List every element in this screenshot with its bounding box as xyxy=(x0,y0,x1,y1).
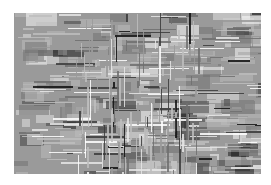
vertical-streak xyxy=(137,103,139,125)
horizontal-streak xyxy=(91,24,113,25)
vertical-streak xyxy=(173,170,174,174)
horizontal-streak xyxy=(185,147,227,148)
vertical-streak xyxy=(116,37,117,62)
texture-block xyxy=(213,13,240,20)
horizontal-streak xyxy=(209,116,248,117)
texture-block xyxy=(115,25,130,32)
horizontal-streak xyxy=(239,73,257,75)
texture-block xyxy=(64,21,81,24)
horizontal-streak xyxy=(206,120,227,122)
vertical-streak xyxy=(76,59,77,80)
vertical-streak xyxy=(150,144,152,174)
texture-block xyxy=(22,119,30,127)
vertical-streak xyxy=(161,89,162,114)
horizontal-streak xyxy=(161,17,178,18)
vertical-streak xyxy=(85,73,87,82)
texture-block xyxy=(36,22,57,26)
horizontal-streak xyxy=(255,125,261,126)
horizontal-streak xyxy=(40,91,54,92)
vertical-streak xyxy=(114,105,115,124)
horizontal-streak xyxy=(111,77,136,78)
vertical-streak xyxy=(164,142,166,158)
vertical-streak xyxy=(87,147,89,168)
vertical-streak xyxy=(120,119,122,146)
vertical-streak xyxy=(97,79,98,92)
texture-block xyxy=(252,29,261,36)
horizontal-streak xyxy=(145,135,180,136)
horizontal-streak xyxy=(60,59,97,60)
vertical-streak xyxy=(90,80,91,120)
vertical-streak xyxy=(161,80,162,86)
horizontal-streak xyxy=(253,165,261,167)
horizontal-streak xyxy=(224,131,246,132)
vertical-streak xyxy=(113,97,114,127)
horizontal-streak xyxy=(195,141,209,143)
texture-block xyxy=(122,45,146,54)
texture-canvas xyxy=(14,13,261,174)
vertical-streak xyxy=(195,87,197,103)
horizontal-streak xyxy=(68,28,113,29)
vertical-streak xyxy=(198,48,200,74)
horizontal-streak xyxy=(103,167,118,169)
vertical-streak xyxy=(178,30,180,40)
vertical-streak xyxy=(78,155,79,174)
vertical-streak xyxy=(95,60,97,67)
horizontal-streak xyxy=(231,167,261,169)
horizontal-streak xyxy=(129,93,168,94)
horizontal-streak xyxy=(115,35,151,37)
horizontal-streak xyxy=(248,94,261,96)
vertical-streak xyxy=(192,123,194,143)
vertical-streak xyxy=(107,125,109,145)
horizontal-streak xyxy=(114,110,140,111)
horizontal-streak xyxy=(34,102,75,103)
horizontal-streak xyxy=(32,129,48,131)
horizontal-streak xyxy=(232,107,241,109)
texture-block xyxy=(239,150,261,156)
vertical-streak xyxy=(106,49,108,77)
vertical-streak xyxy=(143,30,144,62)
horizontal-streak xyxy=(199,158,212,160)
vertical-streak xyxy=(181,123,182,138)
horizontal-streak xyxy=(49,152,86,153)
horizontal-streak xyxy=(109,146,125,147)
vertical-streak xyxy=(109,40,111,70)
vertical-streak xyxy=(186,103,188,140)
horizontal-streak xyxy=(151,16,186,17)
horizontal-streak xyxy=(96,171,110,172)
horizontal-streak xyxy=(216,37,239,39)
vertical-streak xyxy=(186,148,187,165)
horizontal-streak xyxy=(127,41,171,43)
texture-block xyxy=(16,172,28,174)
horizontal-streak xyxy=(144,86,159,88)
horizontal-streak xyxy=(254,100,261,101)
vertical-streak xyxy=(106,140,107,155)
horizontal-streak xyxy=(198,93,244,94)
horizontal-streak xyxy=(19,132,40,134)
horizontal-streak xyxy=(168,95,194,96)
horizontal-streak xyxy=(193,113,222,115)
vertical-streak xyxy=(124,67,125,107)
vertical-streak xyxy=(144,128,146,149)
horizontal-streak xyxy=(175,105,213,106)
vertical-streak xyxy=(109,149,110,174)
vertical-streak xyxy=(86,20,87,38)
vertical-streak xyxy=(126,14,128,22)
vertical-streak xyxy=(170,61,171,80)
vertical-streak xyxy=(146,129,148,154)
horizontal-streak xyxy=(33,33,80,35)
horizontal-streak xyxy=(75,50,98,52)
texture-block xyxy=(20,148,29,153)
horizontal-streak xyxy=(223,81,254,83)
horizontal-streak xyxy=(258,53,261,54)
vertical-streak xyxy=(167,121,168,145)
horizontal-streak xyxy=(214,108,230,109)
horizontal-streak xyxy=(65,96,100,98)
vertical-streak xyxy=(111,39,112,78)
horizontal-streak xyxy=(237,124,257,125)
vertical-streak xyxy=(139,53,140,86)
horizontal-streak xyxy=(78,87,119,89)
horizontal-streak xyxy=(126,61,171,62)
horizontal-streak xyxy=(214,171,229,173)
vertical-streak xyxy=(137,14,138,47)
vertical-streak xyxy=(152,104,153,127)
